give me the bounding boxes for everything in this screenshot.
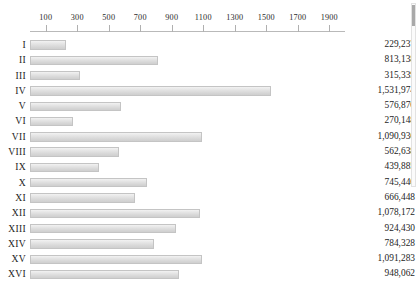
row-value-label: 948,062 [349, 268, 415, 278]
row-value-label: 745,440 [349, 177, 415, 187]
chart-row: VIII562,638 [0, 145, 419, 160]
bar-track [30, 86, 349, 95]
chart-row: III315,339 [0, 69, 419, 84]
row-value-label: 315,339 [349, 70, 415, 80]
row-category-label: VI [0, 115, 26, 126]
row-category-label: X [0, 177, 26, 188]
axis-tick-label: 1700 [289, 13, 306, 22]
bar-track [30, 163, 349, 172]
chart-row: XIII924,430 [0, 222, 419, 237]
row-value-label: 1,091,283 [349, 253, 415, 263]
bar [30, 147, 119, 156]
row-value-label: 562,638 [349, 146, 415, 156]
bar-track [30, 102, 349, 111]
axis-tick [266, 25, 267, 32]
chart-row: IX439,885 [0, 160, 419, 175]
row-category-label: XV [0, 253, 26, 264]
row-category-label: V [0, 100, 26, 111]
scrollbar-thumb[interactable] [412, 5, 415, 26]
axis-tick [140, 25, 141, 32]
axis-tick-label: 1900 [321, 13, 338, 22]
axis-tick [77, 25, 78, 32]
row-category-label: VII [0, 131, 26, 142]
horizontal-bar-chart: 10030050070090011001300150017001900 I229… [0, 0, 419, 291]
row-value-label: 1,078,172 [349, 207, 415, 217]
row-category-label: XII [0, 207, 26, 218]
bar [30, 224, 176, 233]
bar [30, 255, 202, 264]
bar-track [30, 71, 349, 80]
row-category-label: XI [0, 192, 26, 203]
axis-tick-label: 900 [165, 13, 178, 22]
axis-tick-label: 100 [39, 13, 52, 22]
bar [30, 163, 99, 172]
bar [30, 71, 80, 80]
axis-tick-label: 1300 [226, 13, 243, 22]
row-category-label: II [0, 54, 26, 65]
row-value-label: 1,090,936 [349, 131, 415, 141]
axis-tick [298, 25, 299, 32]
bar-track [30, 270, 349, 279]
row-category-label: III [0, 70, 26, 81]
row-value-label: 813,138 [349, 54, 415, 64]
row-value-label: 1,531,974 [349, 85, 415, 95]
bar-track [30, 193, 349, 202]
axis-tick-label: 1500 [258, 13, 275, 22]
axis-tick [109, 25, 110, 32]
bar [30, 56, 158, 65]
row-value-label: 439,885 [349, 161, 415, 171]
vertical-scrollbar[interactable] [411, 3, 416, 187]
bar-track [30, 56, 349, 65]
axis-tick-label: 300 [71, 13, 84, 22]
bar [30, 86, 271, 95]
axis-tick [329, 25, 330, 32]
bar-track [30, 147, 349, 156]
axis-tick-label: 1100 [195, 13, 212, 22]
bar [30, 270, 179, 279]
axis-tick [203, 25, 204, 32]
chart-row: XI666,448 [0, 191, 419, 206]
chart-row: VI270,148 [0, 114, 419, 129]
chart-rows: I229,237II813,138III315,339IV1,531,974V5… [0, 38, 419, 283]
value-axis: 10030050070090011001300150017001900 [0, 0, 419, 38]
row-category-label: XIII [0, 223, 26, 234]
bar [30, 117, 73, 126]
chart-row: VII1,090,936 [0, 130, 419, 145]
axis-tick [235, 25, 236, 32]
row-value-label: 270,148 [349, 115, 415, 125]
chart-row: XVI948,062 [0, 267, 419, 282]
bar-track [30, 224, 349, 233]
chart-row: X745,440 [0, 176, 419, 191]
chart-row: XV1,091,283 [0, 252, 419, 267]
bar [30, 40, 66, 49]
chart-row: I229,237 [0, 38, 419, 53]
row-category-label: VIII [0, 146, 26, 157]
bar [30, 209, 200, 218]
row-category-label: XIV [0, 238, 26, 249]
row-category-label: IX [0, 161, 26, 172]
bar-track [30, 117, 349, 126]
chart-row: IV1,531,974 [0, 84, 419, 99]
bar-track [30, 40, 349, 49]
bar [30, 239, 154, 248]
chart-row: II813,138 [0, 53, 419, 68]
bar [30, 178, 147, 187]
row-value-label: 784,328 [349, 238, 415, 248]
axis-tick [172, 25, 173, 32]
axis-tick-label: 500 [102, 13, 115, 22]
bar [30, 193, 135, 202]
row-value-label: 924,430 [349, 223, 415, 233]
axis-tick [46, 25, 47, 32]
row-category-label: IV [0, 85, 26, 96]
chart-row: V576,870 [0, 99, 419, 114]
row-value-label: 666,448 [349, 192, 415, 202]
bar [30, 102, 121, 111]
bar-track [30, 132, 349, 141]
bar-track [30, 178, 349, 187]
bar-track [30, 209, 349, 218]
row-value-label: 576,870 [349, 100, 415, 110]
bar-track [30, 239, 349, 248]
bar [30, 132, 202, 141]
row-value-label: 229,237 [349, 39, 415, 49]
bar-track [30, 255, 349, 264]
